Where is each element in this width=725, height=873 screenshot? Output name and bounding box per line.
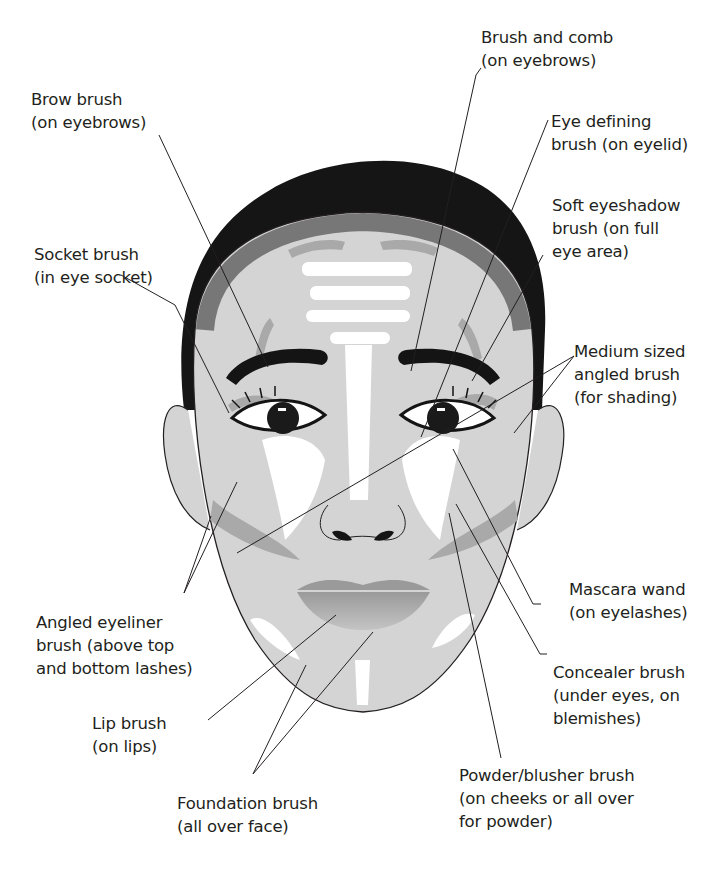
label-mascara-wand: Mascara wand (on eyelashes) [569, 578, 687, 624]
label-lip-brush: Lip brush (on lips) [92, 712, 166, 758]
label-powder-blusher-brush: Powder/blusher brush (on cheeks or all o… [459, 764, 634, 833]
makeup-brush-diagram: Brush and comb (on eyebrows) Brow brush … [0, 0, 725, 873]
label-brow-brush: Brow brush (on eyebrows) [31, 88, 146, 134]
label-socket-brush: Socket brush (in eye socket) [34, 243, 153, 289]
label-medium-angled-brush: Medium sized angled brush (for shading) [574, 340, 685, 409]
label-concealer-brush: Concealer brush (under eyes, on blemishe… [553, 661, 685, 730]
label-eye-defining-brush: Eye defining brush (on eyelid) [551, 110, 688, 156]
label-soft-eyeshadow-brush: Soft eyeshadow brush (on full eye area) [552, 194, 680, 263]
label-foundation-brush: Foundation brush (all over face) [177, 792, 318, 838]
label-brush-and-comb: Brush and comb (on eyebrows) [481, 26, 613, 72]
label-angled-eyeliner-brush: Angled eyeliner brush (above top and bot… [36, 611, 193, 680]
